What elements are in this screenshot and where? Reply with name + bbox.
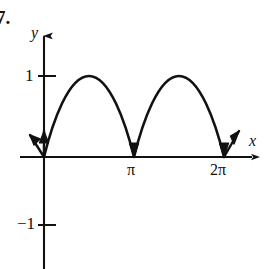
y-axis-label: y xyxy=(31,25,38,41)
cusp-arrowhead-origin-up xyxy=(39,131,48,143)
x-tick-label-two-pi: 2π xyxy=(210,162,226,178)
x-axis-label: x xyxy=(249,133,256,149)
figure-container: 7. y x 1 −1 π 2π xyxy=(0,0,270,269)
graph-plot xyxy=(0,0,270,269)
cusp-arrowhead-pi xyxy=(129,143,138,157)
y-tick-label-negative-1: −1 xyxy=(17,215,35,232)
y-tick-label-1: 1 xyxy=(25,67,34,84)
x-tick-label-pi: π xyxy=(127,162,135,178)
problem-number: 7. xyxy=(0,8,10,27)
cusp-arrowhead-origin-left xyxy=(30,135,40,145)
